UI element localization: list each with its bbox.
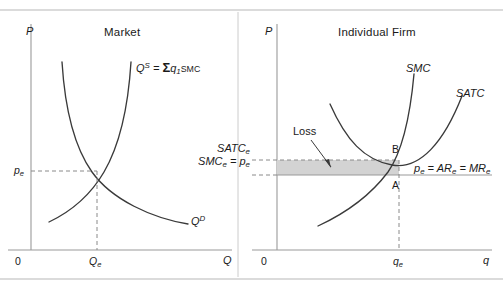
loss-label: Loss [293,126,316,137]
market-price-tick-base: p [14,164,20,176]
smc-e-sub: e [223,160,227,169]
firm-y-axis-label: P [265,26,272,37]
supply-lhs-sup: S [145,61,150,70]
satc-e-base: SATC [217,142,246,154]
smc-e-equals-pe-label: SMCe = pe [150,155,250,168]
satc-e-label: SATCe [150,142,250,155]
demand-base: Q [191,215,200,227]
revenue-mr-sub: e [486,167,490,176]
firm-panel-graphics [252,24,492,250]
supply-eq: = [153,62,159,74]
firm-x-axis-label: q [483,255,489,266]
market-price-tick-label: pe [14,165,24,176]
revenue-ar-sub: e [452,167,456,176]
firm-quantity-tick-sub: e [399,260,403,269]
point-b-label: B [392,144,399,155]
supply-lhs: Q [136,62,145,74]
economics-figure: P Market QS = Σq1SMC QD pe 0 Qe Q P Indi… [0,0,503,294]
revenue-eq1: = [428,162,434,174]
revenue-mr: MR [469,162,486,174]
revenue-ar: AR [437,162,452,174]
firm-origin-label: 0 [261,256,267,267]
market-origin-label: 0 [15,256,21,267]
satc-curve-label: SATC [456,88,485,99]
firm-cost-stack-labels: SATCe SMCe = pe [150,142,250,169]
demand-sup: D [200,214,206,223]
market-y-axis-label: P [26,26,33,37]
pe-sub: e [246,160,250,169]
smc-e-equals: = [230,155,236,167]
market-demand-curve-label: QD [191,216,205,227]
satc-curve [330,96,462,166]
market-panel-title: Market [104,27,140,39]
firm-quantity-tick-base: q [393,255,399,267]
firm-quantity-tick-label: qe [393,256,403,267]
smc-e-base: SMC [198,155,222,167]
figure-graphics [0,0,503,294]
market-quantity-tick-base: Q [89,255,97,267]
revenue-p-sub: e [420,167,424,176]
market-price-tick-sub: e [20,169,24,178]
market-x-axis-label: Q [223,255,232,266]
point-a-label: A [392,180,399,191]
supply-rhs-sub: 1 [176,67,180,76]
smc-curve-label: SMC [406,63,430,74]
revenue-eq2: = [459,162,465,174]
smc-curve [318,74,414,226]
firm-panel-title: Individual Firm [338,27,416,39]
market-quantity-tick-sub: e [97,260,101,269]
price-ar-mr-label: pe = ARe = MRe [414,163,490,174]
pe-base: p [239,155,245,167]
supply-rhs-smallcaps: SMC [181,64,201,74]
satc-e-sub: e [246,147,250,156]
market-quantity-tick-label: Qe [89,256,101,267]
market-supply-curve-label: QS = Σq1SMC [136,61,200,74]
